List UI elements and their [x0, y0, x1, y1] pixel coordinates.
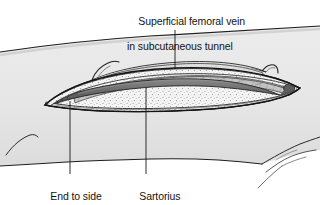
label-vein-line2: in subcutaneous tunnel [127, 40, 245, 53]
label-sartorius-line1: Sartorius [139, 190, 180, 202]
medical-illustration-figure: Superficial femoral vein in subcutaneous… [0, 0, 320, 205]
label-end-to-side-anastomosis: End to side anastomosis [39, 177, 102, 205]
label-superficial-femoral-vein: Superficial femoral vein in subcutaneous… [127, 2, 245, 77]
label-vein-line1: Superficial femoral vein [138, 15, 245, 27]
label-anastomosis-line1: End to side [50, 190, 101, 202]
label-sartorius-muscle: Sartorius muscle [128, 177, 180, 205]
